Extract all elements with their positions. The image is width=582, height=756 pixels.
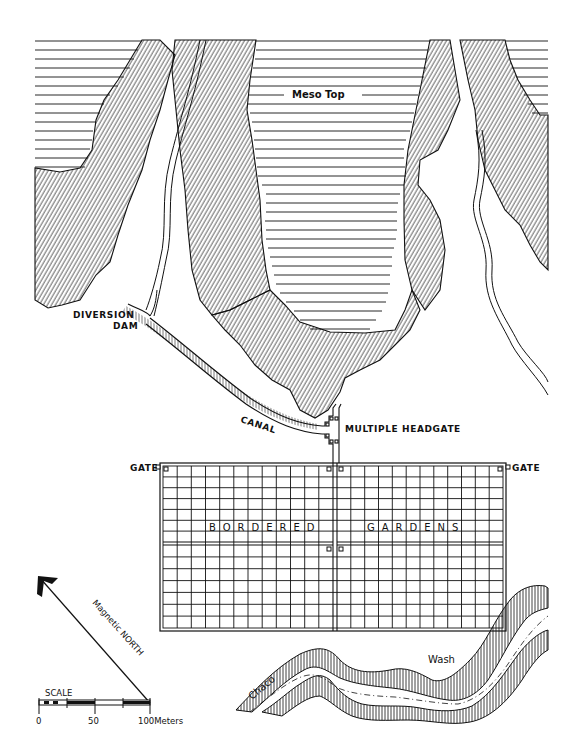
bordered-gardens-grid bbox=[160, 463, 506, 631]
mesa-top-label: Meso Top bbox=[292, 89, 345, 100]
diversion-dam-label-line1: DIVERSION bbox=[73, 310, 134, 320]
cliff-left-inner bbox=[172, 40, 270, 315]
cliff-left-outer bbox=[35, 40, 175, 308]
scale-bar bbox=[39, 698, 150, 714]
gate-right-label: GATE bbox=[512, 463, 540, 473]
scale-title: SCALE bbox=[45, 688, 72, 698]
north-arrow-label: Magnetic NORTH bbox=[91, 598, 146, 658]
irrigation-site-map: Meso Top DIVERSION DAM CANAL MULTIPLE HE… bbox=[0, 0, 582, 756]
multiple-headgate bbox=[322, 404, 341, 463]
scale-tick-0: 0 bbox=[36, 716, 41, 726]
scale-tick-100: 100Meters bbox=[138, 716, 184, 726]
gate-left-label: GATE bbox=[130, 463, 158, 473]
cliff-right-inner bbox=[404, 40, 460, 310]
wash-label: Wash bbox=[428, 654, 455, 665]
diversion-dam-label-line2: DAM bbox=[113, 321, 138, 331]
scale-tick-50: 50 bbox=[88, 716, 99, 726]
multiple-headgate-label: MULTIPLE HEADGATE bbox=[345, 424, 461, 434]
canal-label: CANAL bbox=[239, 414, 277, 435]
cliff-right-outer bbox=[460, 40, 548, 270]
bordered-label: BORDERED bbox=[209, 522, 322, 533]
gardens-label: GARDENS bbox=[367, 522, 465, 533]
mesa-top-contours-center bbox=[247, 41, 430, 329]
